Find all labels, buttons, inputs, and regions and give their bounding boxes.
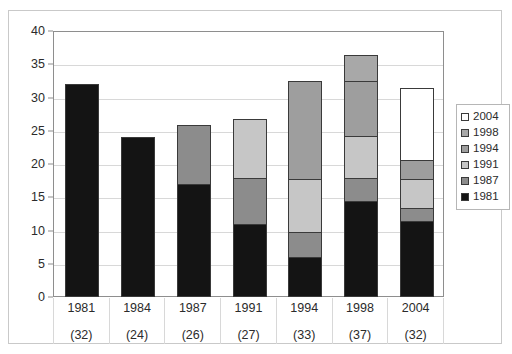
gridline xyxy=(54,65,443,66)
bar-segment-1994[interactable] xyxy=(288,81,322,181)
bar-segment-1991[interactable] xyxy=(400,179,434,209)
x-axis-total-label: (32) xyxy=(405,329,427,342)
y-axis-tick-label: 5 xyxy=(38,258,45,271)
bar-segment-1991[interactable] xyxy=(233,119,267,179)
legend-swatch-icon xyxy=(461,145,469,153)
x-axis-total-label: (33) xyxy=(293,329,315,342)
x-axis-total-label: (32) xyxy=(70,329,92,342)
x-axis-cell: 1984(24) xyxy=(109,298,165,344)
legend-item-2004[interactable]: 2004 xyxy=(461,109,506,125)
x-axis-total-label: (27) xyxy=(237,329,259,342)
bar-segment-1991[interactable] xyxy=(344,136,378,179)
bar-segment-1981[interactable] xyxy=(400,221,434,297)
stacked-bar[interactable] xyxy=(65,83,99,296)
bar-segment-1981[interactable] xyxy=(65,84,99,297)
legend-swatch-icon xyxy=(461,113,469,121)
bar-segment-1987[interactable] xyxy=(288,232,322,259)
x-axis-total-label: (26) xyxy=(182,329,204,342)
legend-label: 1998 xyxy=(473,127,499,139)
y-axis-tick-label: 30 xyxy=(31,91,45,104)
x-axis-year-label: 1991 xyxy=(235,302,263,315)
y-axis-tick-label: 40 xyxy=(31,25,45,38)
legend-label: 1994 xyxy=(473,143,499,155)
x-axis-labels: 1981(32)1984(24)1987(26)1991(27)1994(33)… xyxy=(53,298,444,344)
y-axis-tick-label: 10 xyxy=(31,224,45,237)
bar-segment-1994[interactable] xyxy=(400,160,434,180)
legend-swatch-icon xyxy=(461,129,469,137)
x-axis-total-label: (24) xyxy=(126,329,148,342)
legend-label: 1981 xyxy=(473,191,499,203)
stacked-bar[interactable] xyxy=(400,83,434,296)
legend-label: 2004 xyxy=(473,111,499,123)
x-axis-cell: 2004(32) xyxy=(387,298,444,344)
legend-item-1998[interactable]: 1998 xyxy=(461,125,506,141)
legend-swatch-icon xyxy=(461,177,469,185)
legend-label: 1987 xyxy=(473,175,499,187)
x-axis-year-label: 1994 xyxy=(290,302,318,315)
bar-segment-1998[interactable] xyxy=(344,55,378,82)
x-axis-year-label: 1981 xyxy=(67,302,95,315)
y-axis-tick-label: 25 xyxy=(31,125,45,138)
x-axis-cell: 1994(33) xyxy=(276,298,332,344)
x-axis-cell: 1987(26) xyxy=(164,298,220,344)
plot-area xyxy=(53,31,444,297)
y-axis-tick-label: 15 xyxy=(31,191,45,204)
bar-segment-1987[interactable] xyxy=(233,178,267,225)
x-axis-year-label: 2004 xyxy=(402,302,430,315)
plot-region xyxy=(53,31,444,297)
x-axis-total-label: (37) xyxy=(349,329,371,342)
legend-item-1981[interactable]: 1981 xyxy=(461,189,506,205)
y-axis-tick-label: 0 xyxy=(38,291,45,304)
legend: 200419981994199119871981 xyxy=(456,104,510,210)
bar-segment-1981[interactable] xyxy=(177,184,211,297)
bar-segment-1987[interactable] xyxy=(400,208,434,221)
x-axis-cell: 1991(27) xyxy=(220,298,276,344)
y-axis: 0510152025303540 xyxy=(9,31,53,297)
legend-label: 1991 xyxy=(473,159,499,171)
x-axis-cell: 1981(32) xyxy=(53,298,109,344)
bar-segment-1994[interactable] xyxy=(344,81,378,138)
legend-item-1987[interactable]: 1987 xyxy=(461,173,506,189)
legend-item-1994[interactable]: 1994 xyxy=(461,141,506,157)
y-axis-tick-label: 35 xyxy=(31,58,45,71)
stacked-bar[interactable] xyxy=(177,123,211,296)
bar-segment-1981[interactable] xyxy=(288,257,322,297)
bar-segment-2004[interactable] xyxy=(400,88,434,161)
bar-segment-1981[interactable] xyxy=(233,224,267,297)
stacked-bar[interactable] xyxy=(121,136,155,296)
y-axis-tick-label: 20 xyxy=(31,158,45,171)
bar-segment-1981[interactable] xyxy=(121,137,155,297)
bar-segment-1987[interactable] xyxy=(177,125,211,185)
gridline xyxy=(54,99,443,100)
x-axis-cell: 1998(37) xyxy=(332,298,388,344)
x-axis-year-label: 1987 xyxy=(179,302,207,315)
chart-frame: 0510152025303540 1981(32)1984(24)1987(26… xyxy=(8,10,502,344)
bar-segment-1987[interactable] xyxy=(344,178,378,201)
legend-swatch-icon xyxy=(461,193,469,201)
x-axis-year-label: 1984 xyxy=(123,302,151,315)
bar-segment-1981[interactable] xyxy=(344,201,378,297)
stacked-bar[interactable] xyxy=(233,116,267,296)
stacked-bar[interactable] xyxy=(288,77,322,296)
legend-swatch-icon xyxy=(461,161,469,169)
x-axis-year-label: 1998 xyxy=(346,302,374,315)
bar-segment-1991[interactable] xyxy=(288,179,322,232)
legend-item-1991[interactable]: 1991 xyxy=(461,157,506,173)
stacked-bar[interactable] xyxy=(344,50,378,296)
